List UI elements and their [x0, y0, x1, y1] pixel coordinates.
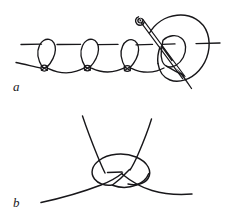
panel-label-a: a — [13, 80, 20, 93]
knot-inner-bar — [108, 172, 123, 173]
knot-illustration-svg — [0, 0, 231, 219]
knot-loop-oval — [99, 154, 150, 185]
panel-b-group — [41, 116, 192, 203]
stitch-loop-2 — [81, 39, 98, 67]
sewing-needle — [136, 17, 192, 89]
figure-root: a b — [0, 0, 231, 219]
panel-a-group — [16, 15, 220, 88]
ground-thread — [21, 43, 220, 45]
stitch-loop-1 — [38, 39, 55, 68]
tail-left — [41, 173, 123, 203]
strand-left-upper — [83, 116, 106, 173]
stitch-loop-3 — [121, 40, 138, 68]
strand-right-upper — [130, 119, 152, 170]
panel-label-b: b — [13, 196, 20, 209]
